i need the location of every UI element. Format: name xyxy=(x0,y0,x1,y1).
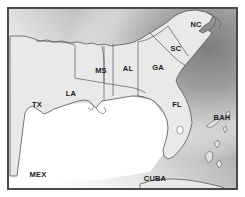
label-nc: NC xyxy=(190,20,202,29)
label-sc: SC xyxy=(171,44,182,53)
label-cuba: CUBA xyxy=(144,174,167,183)
label-mex: MEX xyxy=(30,170,47,179)
label-la: LA xyxy=(66,89,77,98)
label-bah: BAH xyxy=(214,113,231,122)
label-al: AL xyxy=(123,64,134,73)
label-tx: TX xyxy=(32,100,42,109)
label-ms: MS xyxy=(95,66,107,75)
southeast-us-map: NCSCMSALGALATXFLBAHMEXCUBA xyxy=(0,0,245,197)
label-fl: FL xyxy=(172,100,182,109)
map-figure: NCSCMSALGALATXFLBAHMEXCUBA xyxy=(0,0,245,197)
label-ga: GA xyxy=(152,63,164,72)
lake-okeechobee xyxy=(177,126,183,134)
